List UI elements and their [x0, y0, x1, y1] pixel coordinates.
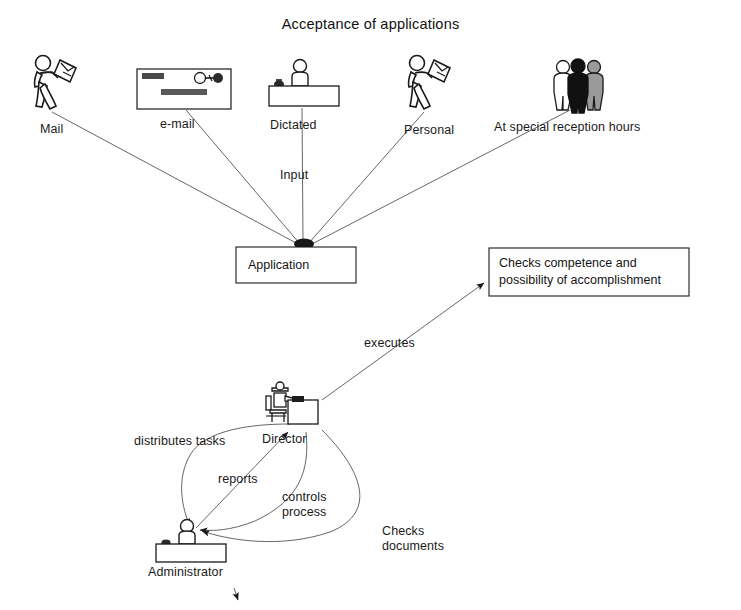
edge-label-controls-process: controls process [282, 490, 327, 521]
edge-label-executes: executes [364, 336, 415, 351]
source-label-personal: Personal [404, 123, 454, 138]
edge-label-checks-documents-line1: Checks [382, 524, 444, 539]
source-label-reception: At special reception hours [494, 120, 640, 135]
screen-window-icon [136, 68, 232, 110]
edge-label-checks-documents-line2: documents [382, 539, 444, 554]
checks-box-label: Checks competence and possibility of acc… [499, 255, 661, 288]
person-at-counter-with-phone-icon [268, 58, 340, 110]
walking-person-with-letter-icon [28, 52, 88, 114]
source-label-email: e-mail [160, 117, 195, 132]
checks-box-label-line2: possibility of accomplishment [499, 272, 661, 289]
edge-administrator-output [234, 588, 238, 600]
edge-label-reports: reports [218, 472, 258, 487]
walking-person-with-document-icon [402, 52, 462, 114]
checks-box-label-line1: Checks competence and [499, 255, 661, 272]
node-label-director: Director [262, 432, 307, 447]
person-at-counter-icon [155, 518, 227, 566]
edge-label-distributes-tasks: distributes tasks [134, 434, 225, 449]
source-label-dictated: Dictated [270, 118, 317, 133]
edge-label-input: Input [280, 168, 308, 183]
diagram-edges-canvas [0, 0, 741, 610]
edge-label-controls-process-line1: controls [282, 490, 327, 505]
node-label-administrator: Administrator [148, 565, 223, 580]
edge-label-controls-process-line2: process [282, 505, 327, 520]
three-people-group-icon [548, 58, 610, 114]
application-box-label: Application [248, 257, 309, 274]
person-at-desk-with-computer-icon [262, 382, 332, 434]
edge-label-checks-documents: Checks documents [382, 524, 444, 555]
source-label-mail: Mail [40, 122, 63, 137]
